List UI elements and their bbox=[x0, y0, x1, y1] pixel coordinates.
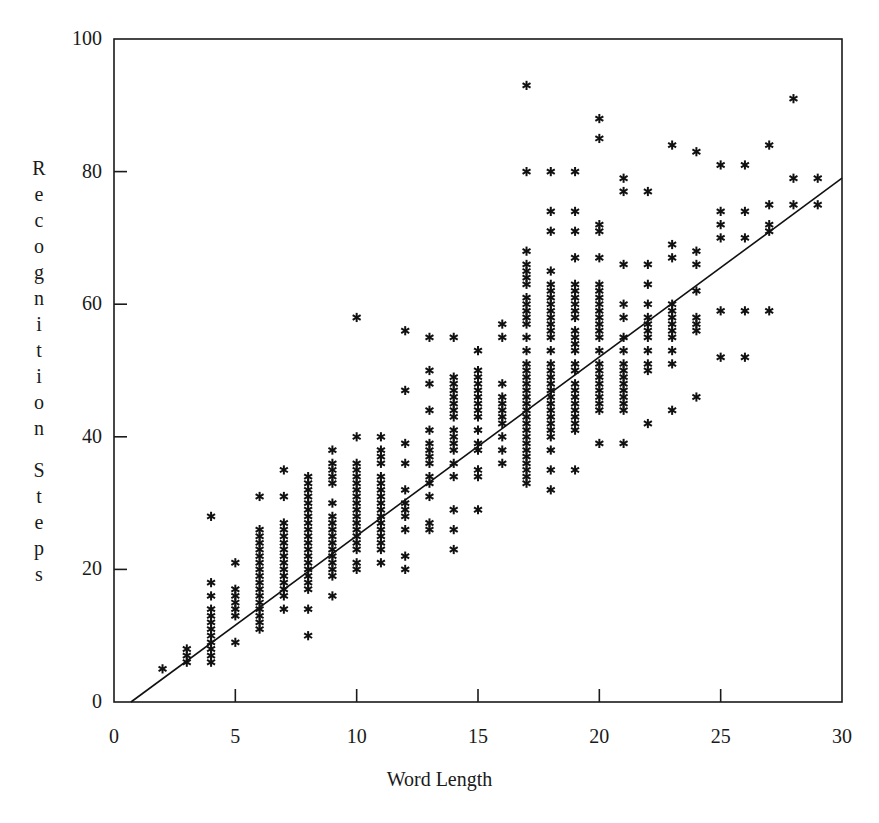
data-point-marker bbox=[692, 260, 700, 269]
data-point-marker bbox=[547, 445, 555, 454]
data-point-marker bbox=[498, 392, 506, 401]
x-tick-label: 15 bbox=[448, 726, 508, 746]
data-point-marker bbox=[231, 558, 239, 567]
data-point-marker bbox=[401, 485, 409, 494]
data-point-marker bbox=[450, 472, 458, 481]
data-point-marker bbox=[231, 585, 239, 594]
data-point-marker bbox=[450, 545, 458, 554]
data-point-marker bbox=[644, 280, 652, 289]
data-point-marker bbox=[328, 499, 336, 508]
data-point-marker bbox=[256, 492, 264, 501]
data-point-marker bbox=[474, 505, 482, 514]
data-point-marker bbox=[377, 445, 385, 454]
data-point-marker bbox=[280, 518, 288, 527]
x-tick-label: 10 bbox=[327, 726, 387, 746]
data-point-marker bbox=[595, 359, 603, 368]
data-point-marker bbox=[474, 366, 482, 375]
data-point-marker bbox=[620, 300, 628, 309]
data-point-marker bbox=[571, 359, 579, 368]
data-point-marker bbox=[280, 492, 288, 501]
y-tick-label: 20 bbox=[38, 558, 102, 578]
data-point-marker bbox=[789, 174, 797, 183]
data-point-marker bbox=[765, 220, 773, 229]
data-point-marker bbox=[523, 359, 531, 368]
data-point-marker bbox=[523, 293, 531, 302]
data-point-marker bbox=[328, 459, 336, 468]
plot-canvas bbox=[0, 0, 879, 823]
trend-line bbox=[131, 178, 842, 702]
data-point-marker bbox=[644, 359, 652, 368]
data-point-marker bbox=[401, 499, 409, 508]
data-point-marker bbox=[620, 260, 628, 269]
data-point-marker bbox=[450, 525, 458, 534]
data-point-marker bbox=[401, 326, 409, 335]
data-point-marker bbox=[353, 313, 361, 322]
data-point-marker bbox=[620, 439, 628, 448]
data-point-marker bbox=[425, 518, 433, 527]
data-point-marker bbox=[474, 426, 482, 435]
data-point-marker bbox=[547, 485, 555, 494]
data-point-marker bbox=[765, 200, 773, 209]
y-tick-label: 0 bbox=[38, 691, 102, 711]
data-point-marker bbox=[523, 260, 531, 269]
data-point-marker bbox=[595, 280, 603, 289]
data-point-marker bbox=[231, 638, 239, 647]
data-points bbox=[159, 81, 822, 674]
data-point-marker bbox=[668, 253, 676, 262]
data-point-marker bbox=[474, 465, 482, 474]
data-point-marker bbox=[450, 426, 458, 435]
y-tick-label: 100 bbox=[38, 28, 102, 48]
data-point-marker bbox=[814, 174, 822, 183]
data-point-marker bbox=[644, 346, 652, 355]
regression-line bbox=[131, 178, 842, 702]
data-point-marker bbox=[620, 187, 628, 196]
data-point-marker bbox=[207, 591, 215, 600]
data-point-marker bbox=[547, 266, 555, 275]
data-point-marker bbox=[498, 379, 506, 388]
data-point-marker bbox=[256, 525, 264, 534]
data-point-marker bbox=[377, 558, 385, 567]
data-point-marker bbox=[328, 591, 336, 600]
data-point-marker bbox=[668, 359, 676, 368]
data-point-marker bbox=[717, 160, 725, 169]
data-point-marker bbox=[425, 366, 433, 375]
data-point-marker bbox=[425, 406, 433, 415]
data-point-marker bbox=[280, 605, 288, 614]
data-point-marker bbox=[450, 333, 458, 342]
data-point-marker bbox=[401, 459, 409, 468]
data-point-marker bbox=[523, 247, 531, 256]
data-point-marker bbox=[425, 379, 433, 388]
data-point-marker bbox=[571, 207, 579, 216]
data-point-marker bbox=[401, 439, 409, 448]
data-point-marker bbox=[814, 200, 822, 209]
data-point-marker bbox=[692, 247, 700, 256]
data-point-marker bbox=[425, 333, 433, 342]
x-tick-label: 25 bbox=[691, 726, 751, 746]
data-point-marker bbox=[425, 439, 433, 448]
data-point-marker bbox=[668, 406, 676, 415]
data-point-marker bbox=[328, 512, 336, 521]
data-point-marker bbox=[547, 207, 555, 216]
data-point-marker bbox=[741, 233, 749, 242]
x-tick-label: 0 bbox=[84, 726, 144, 746]
data-point-marker bbox=[450, 505, 458, 514]
data-point-marker bbox=[377, 472, 385, 481]
data-point-marker bbox=[595, 114, 603, 123]
x-tick-label: 5 bbox=[205, 726, 265, 746]
data-point-marker bbox=[523, 81, 531, 90]
data-point-marker bbox=[353, 558, 361, 567]
data-point-marker bbox=[498, 459, 506, 468]
data-point-marker bbox=[425, 492, 433, 501]
data-point-marker bbox=[547, 280, 555, 289]
data-point-marker bbox=[571, 167, 579, 176]
data-point-marker bbox=[692, 313, 700, 322]
data-point-marker bbox=[450, 373, 458, 382]
data-point-marker bbox=[717, 233, 725, 242]
data-point-marker bbox=[523, 167, 531, 176]
data-point-marker bbox=[498, 432, 506, 441]
data-point-marker bbox=[571, 326, 579, 335]
data-point-marker bbox=[547, 167, 555, 176]
data-point-marker bbox=[547, 465, 555, 474]
data-point-marker bbox=[304, 472, 312, 481]
data-point-marker bbox=[571, 227, 579, 236]
